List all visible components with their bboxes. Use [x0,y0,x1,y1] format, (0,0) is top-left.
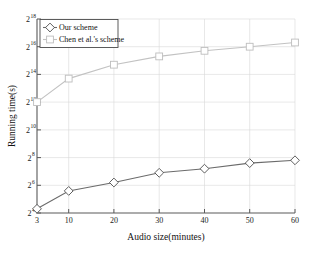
y-axis-ticks [37,19,41,213]
legend-marker-square-icon [47,36,54,43]
chart-legend[interactable]: Our scheme Chen et al.'s scheme [40,20,124,48]
x-tick-label-10: 10 [65,216,73,225]
y-tick-label-2-14-base: 2 [26,70,30,79]
y-tick-label-2-12-base: 2 [26,98,30,107]
datapoint-chen-50 [246,43,253,50]
datapoint-chen-20 [111,61,118,68]
y-tick-label-2-8-exp: 8 [32,151,35,157]
y-tick-label-2-18-exp: 18 [31,13,37,19]
legend-entry-our-scheme[interactable]: Our scheme [43,23,98,32]
vertical-gridlines [69,19,295,213]
y-tick-label-2-16-exp: 16 [31,40,37,46]
chart-figure: 2 18 2 16 2 14 2 12 2 10 2 8 2 6 2 4 [0,0,310,255]
legend-label-our-scheme: Our scheme [59,23,98,32]
axis-frame [37,19,295,213]
series-line-chen [37,43,295,103]
series-our-scheme [33,156,300,213]
y-axis-tick-labels: 2 18 2 16 2 14 2 12 2 10 2 8 2 6 2 4 [26,13,36,219]
x-tick-label-50: 50 [246,216,254,225]
y-tick-label-2-14-exp: 14 [31,68,37,74]
y-tick-label-2-10-exp: 10 [31,123,37,129]
x-tick-label-3: 3 [35,216,39,225]
datapoint-our-40 [200,164,209,173]
x-tick-label-40: 40 [201,216,209,225]
datapoint-chen-40 [201,47,208,54]
datapoint-chen-10 [65,75,72,82]
x-tick-label-60: 60 [291,216,299,225]
y-tick-label-2-6-base: 2 [28,181,32,190]
x-axis-tick-labels: 3 10 20 30 40 50 60 [35,216,299,225]
datapoint-our-10 [64,187,73,196]
datapoint-our-30 [155,168,164,177]
y-tick-label-2-6-exp: 6 [32,179,35,185]
x-tick-label-20: 20 [110,216,118,225]
y-tick-label-2-16-base: 2 [26,43,30,52]
x-axis-title: Audio size(minutes) [127,232,204,243]
datapoint-our-60 [291,156,300,165]
y-tick-label-2-18-base: 2 [26,15,30,24]
y-tick-label-2-8-base: 2 [28,154,32,163]
datapoint-our-50 [245,159,254,168]
y-tick-label-2-10-base: 2 [26,126,30,135]
chart-svg: 2 18 2 16 2 14 2 12 2 10 2 8 2 6 2 4 [0,0,310,255]
y-axis-title: Running time(s) [7,85,18,147]
datapoint-chen-3 [34,99,41,106]
datapoint-chen-30 [156,53,163,60]
datapoint-chen-60 [292,39,299,46]
x-tick-label-30: 30 [155,216,163,225]
series-chen-et-als-scheme [34,39,299,105]
y-tick-label-2-4-base: 2 [28,209,32,218]
x-axis-ticks [37,209,295,213]
series-line-our [37,160,295,209]
legend-label-chen-scheme: Chen et al.'s scheme [59,35,124,44]
